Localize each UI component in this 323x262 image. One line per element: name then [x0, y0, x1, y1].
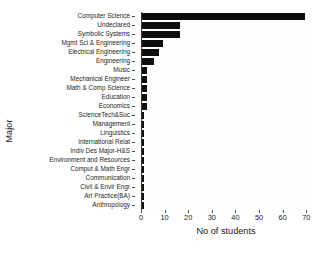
- y-axis-category-label-text: Anthropology: [92, 202, 130, 208]
- y-axis-category-label-text: Linguistics: [100, 130, 130, 136]
- y-axis-tick-mark: [132, 106, 135, 107]
- bar-row: [142, 21, 312, 30]
- y-axis-category-label: Music: [14, 66, 136, 75]
- bar: [142, 31, 180, 37]
- x-axis-tick-label: 70: [302, 214, 310, 221]
- bar: [142, 13, 305, 19]
- bar-chart: Major Computer ScienceUndeclaredSymbolic…: [0, 0, 323, 262]
- y-axis-category-label: Art Practice(BA): [14, 192, 136, 201]
- y-axis-category-label: Undeclared: [14, 21, 136, 30]
- y-axis-tick-mark: [132, 70, 135, 71]
- y-axis-tick-mark: [132, 79, 135, 80]
- y-axis-category-label: Anthropology: [14, 201, 136, 210]
- bar: [142, 184, 144, 190]
- y-axis-category-label: Computer Science: [14, 12, 136, 21]
- bar-row: [142, 102, 312, 111]
- y-axis-tick-mark: [132, 205, 135, 206]
- x-axis-tick-label: 60: [279, 214, 287, 221]
- bar: [142, 40, 163, 46]
- bar-row: [142, 30, 312, 39]
- bar-row: [142, 111, 312, 120]
- y-axis-tick-mark: [132, 196, 135, 197]
- y-axis-category-label: Electrical Engineering: [14, 48, 136, 57]
- y-axis-tick-mark: [132, 34, 135, 35]
- bar-row: [142, 84, 312, 93]
- bar-row: [142, 192, 312, 201]
- y-axis-category-label-text: Communication: [86, 175, 130, 181]
- y-axis-category-label-text: Symbolic Systems: [78, 31, 130, 37]
- bar-row: [142, 120, 312, 129]
- bar: [142, 76, 147, 82]
- y-axis-tick-mark: [132, 88, 135, 89]
- y-axis-tick-mark: [132, 142, 135, 143]
- bar: [142, 130, 144, 136]
- y-axis-category-label-text: Computer Science: [77, 13, 130, 19]
- bar: [142, 112, 144, 118]
- y-axis-category-label: Linguistics: [14, 129, 136, 138]
- bar-row: [142, 174, 312, 183]
- y-axis-tick-mark: [132, 52, 135, 53]
- bar-row: [142, 57, 312, 66]
- bar-row: [142, 66, 312, 75]
- y-axis-category-label: International Relat: [14, 138, 136, 147]
- bar: [142, 139, 144, 145]
- y-axis-tick-mark: [132, 160, 135, 161]
- bar-row: [142, 156, 312, 165]
- y-axis-category-label-text: Mechanical Engineer: [70, 76, 130, 82]
- y-axis-category-label-text: ScienceTech&Soc: [78, 112, 130, 118]
- bar: [142, 49, 159, 55]
- bar-row: [142, 165, 312, 174]
- y-axis-tick-mark: [132, 115, 135, 116]
- y-axis-tick-mark: [132, 97, 135, 98]
- y-axis-category-label-text: Math & Comp Science: [66, 85, 130, 91]
- bar: [142, 58, 154, 64]
- y-axis-category-label-text: Undeclared: [97, 22, 130, 28]
- x-axis-tick-label: 0: [139, 214, 143, 221]
- y-axis-category-label-text: Electrical Engineering: [68, 49, 130, 55]
- y-axis-category-labels: Computer ScienceUndeclaredSymbolic Syste…: [14, 12, 136, 210]
- y-axis-category-label: Symbolic Systems: [14, 30, 136, 39]
- bar-row: [142, 48, 312, 57]
- bar-row: [142, 93, 312, 102]
- y-axis-category-label: Economics: [14, 102, 136, 111]
- y-axis-category-label: Environment and Resources: [14, 156, 136, 165]
- x-axis-tick-labels: 010203040506070: [131, 214, 321, 226]
- y-axis-category-label: Communication: [14, 174, 136, 183]
- y-axis-tick-mark: [132, 151, 135, 152]
- y-axis-tick-mark: [132, 61, 135, 62]
- y-axis-category-label-text: Management: [93, 121, 130, 127]
- y-axis-tick-mark: [132, 43, 135, 44]
- bar-row: [142, 147, 312, 156]
- y-axis-category-label: Mechanical Engineer: [14, 75, 136, 84]
- y-axis-tick-mark: [132, 16, 135, 17]
- y-axis-category-label-text: International Relat: [78, 139, 130, 145]
- bar-row: [142, 12, 312, 21]
- y-axis-tick-mark: [132, 133, 135, 134]
- y-axis-tick-mark: [132, 178, 135, 179]
- y-axis-category-label-text: Mgmt Sci & Engineering: [61, 40, 130, 46]
- bar-row: [142, 75, 312, 84]
- bar: [142, 94, 147, 100]
- bar: [142, 148, 144, 154]
- x-axis-tick-label: 40: [231, 214, 239, 221]
- x-axis-tick-label: 10: [160, 214, 168, 221]
- x-axis-title: No of students: [141, 226, 311, 236]
- bar-row: [142, 138, 312, 147]
- y-axis-title: Major: [1, 0, 15, 262]
- bar-row: [142, 39, 312, 48]
- bar-series: [142, 12, 312, 210]
- y-axis-category-label-text: Engineering: [96, 58, 130, 64]
- y-axis-category-label-text: Music: [113, 67, 130, 73]
- y-axis-category-label: Comput & Math Engr: [14, 165, 136, 174]
- bar: [142, 67, 147, 73]
- y-axis-category-label: Civil & Envir Engr: [14, 183, 136, 192]
- bar-row: [142, 183, 312, 192]
- y-axis-category-label: Indiv Des Major-H&S: [14, 147, 136, 156]
- x-axis-tick-label: 20: [184, 214, 192, 221]
- bar: [142, 121, 144, 127]
- y-axis-tick-mark: [132, 169, 135, 170]
- bar: [142, 175, 144, 181]
- y-axis-title-text: Major: [3, 119, 13, 142]
- bar: [142, 193, 144, 199]
- y-axis-category-label-text: Environment and Resources: [49, 157, 130, 163]
